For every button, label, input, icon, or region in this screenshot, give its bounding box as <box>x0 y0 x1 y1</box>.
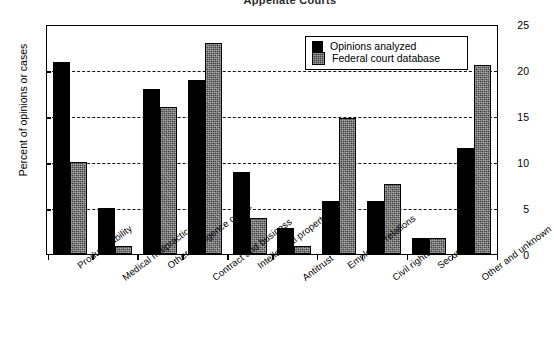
bar-group-other-negligence-or-tort <box>137 25 182 254</box>
bar-federal-8 <box>429 238 446 254</box>
chart-legend: Opinions analyzed Federal court database <box>305 36 468 70</box>
y-axis-title: Percent of opinions or cases <box>17 0 29 225</box>
y-tick-label-20: 20 <box>507 66 529 76</box>
legend-label-federal-court-database: Federal court database <box>332 53 440 64</box>
y-tick-label-10: 10 <box>507 158 529 168</box>
legend-label-opinions-analyzed: Opinions analyzed <box>330 41 416 52</box>
bar-opinions-6 <box>322 201 339 254</box>
bar-federal-5 <box>294 246 311 254</box>
bar-group-medical-malpractice <box>92 25 137 254</box>
y-tick-label-5: 5 <box>507 204 529 214</box>
y-tick-label-25: 25 <box>507 20 529 30</box>
bar-opinions-0 <box>53 62 70 254</box>
y-tick-label-15: 15 <box>507 112 529 122</box>
bar-federal-6 <box>339 118 356 254</box>
bar-federal-0 <box>70 162 87 254</box>
bar-group-product-liability <box>48 25 93 254</box>
chart-title: Appellate Courts <box>190 0 390 6</box>
bar-opinions-2 <box>143 89 160 254</box>
legend-swatch-textured-icon <box>312 52 325 65</box>
bar-federal-1 <box>115 246 132 254</box>
legend-entry-opinions-analyzed: Opinions analyzed <box>312 41 461 52</box>
legend-entry-federal-court-database: Federal court database <box>312 52 461 65</box>
bar-federal-9 <box>474 65 491 254</box>
x-tick-0 <box>48 255 50 260</box>
legend-swatch-solid-icon <box>312 41 323 52</box>
